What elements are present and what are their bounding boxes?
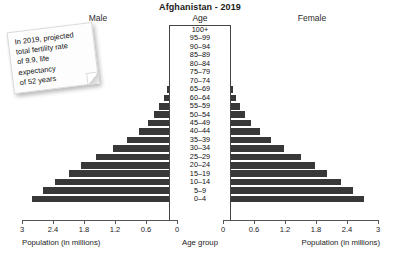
bar-female-3034 xyxy=(223,145,284,152)
x-tick-left xyxy=(53,220,54,224)
bar-male-1014 xyxy=(55,179,177,186)
series-label-male: Male xyxy=(63,13,133,23)
x-tick-label-right: 3 xyxy=(367,225,389,234)
bar-male-1519 xyxy=(69,170,178,177)
bar-male-59 xyxy=(43,187,177,194)
bar-male-3034 xyxy=(113,145,177,152)
age-group-label: 0–4 xyxy=(169,195,231,203)
bar-male-2024 xyxy=(81,162,177,169)
chart-title: Afghanistan - 2019 xyxy=(0,2,400,12)
population-pyramid-chart: Afghanistan - 2019 Age Male Female In 20… xyxy=(0,0,400,263)
x-tick-label-left: 0 xyxy=(166,225,188,234)
x-tick-label-right: 1.2 xyxy=(274,225,296,234)
bar-female-1014 xyxy=(223,179,341,186)
x-tick-label-right: 0 xyxy=(212,225,234,234)
x-tick-label-left: 2.4 xyxy=(42,225,64,234)
x-axis-label-right: Population (in millions) xyxy=(302,238,380,247)
x-tick-label-left: 0.6 xyxy=(135,225,157,234)
x-tick-right xyxy=(285,220,286,224)
bar-female-2529 xyxy=(223,154,301,161)
x-tick-label-right: 1.8 xyxy=(305,225,327,234)
x-tick-label-left: 1.2 xyxy=(104,225,126,234)
x-tick-left xyxy=(146,220,147,224)
x-tick-right xyxy=(223,220,224,224)
x-tick-right xyxy=(316,220,317,224)
x-tick-left xyxy=(177,220,178,224)
x-tick-right xyxy=(378,220,379,224)
series-label-female: Female xyxy=(272,13,352,23)
bar-female-2024 xyxy=(223,162,315,169)
x-axis-right xyxy=(223,220,378,221)
bar-female-1519 xyxy=(223,170,327,177)
bar-male-04 xyxy=(32,196,177,203)
x-tick-label-left: 1.8 xyxy=(73,225,95,234)
x-tick-label-right: 0.6 xyxy=(243,225,265,234)
plot-area: 100+95–9990–9485–8980–8475–7970–7465–696… xyxy=(0,26,400,220)
x-tick-label-left: 3 xyxy=(11,225,33,234)
x-tick-left xyxy=(115,220,116,224)
x-tick-left xyxy=(84,220,85,224)
x-tick-right xyxy=(254,220,255,224)
bar-female-59 xyxy=(223,187,353,194)
x-tick-right xyxy=(347,220,348,224)
x-tick-left xyxy=(22,220,23,224)
x-axis-left xyxy=(22,220,177,221)
x-tick-label-right: 2.4 xyxy=(336,225,358,234)
bar-male-2529 xyxy=(96,154,177,161)
bar-female-04 xyxy=(223,196,364,203)
